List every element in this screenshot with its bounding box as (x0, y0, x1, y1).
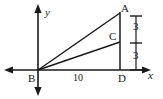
y-axis (34, 4, 41, 96)
x-axis-negative-arrow (4, 66, 13, 73)
triangle-edges (38, 12, 120, 70)
geometry-figure: y x B D A C 10 3 3 (0, 0, 163, 99)
x-axis-label: x (148, 70, 153, 81)
base-length-label: 10 (73, 73, 83, 83)
point-label-c: C (109, 31, 116, 42)
point-label-a: A (121, 3, 129, 14)
segment-BC (38, 42, 120, 70)
lower-segment-label: 3 (133, 50, 139, 61)
upper-segment-label: 3 (133, 21, 139, 32)
y-axis-negative-arrow (34, 87, 41, 96)
point-label-b: B (28, 73, 35, 84)
y-axis-label: y (45, 7, 50, 18)
point-label-d: D (118, 73, 126, 84)
segment-BA (38, 13, 120, 70)
y-axis-positive-arrow (34, 4, 41, 13)
